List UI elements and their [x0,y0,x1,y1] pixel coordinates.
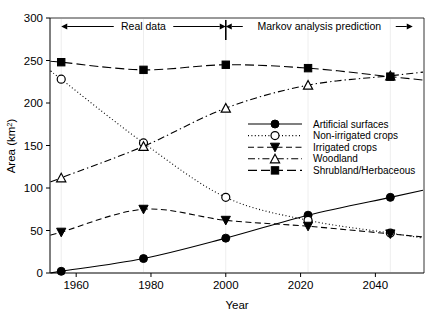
y-tick-label: 250 [24,55,43,67]
data-point-marker [222,61,229,68]
svg-text:Area (km2): Area (km2) [5,119,18,174]
data-point-marker [304,64,311,71]
x-tick-label: 1980 [138,279,164,291]
data-point-marker [386,193,394,201]
y-tick-label: 100 [24,182,43,194]
y-tick-label: 150 [24,140,43,152]
legend-label: Non-irrigated crops [313,130,398,141]
legend-label: Woodland [313,153,358,164]
data-point-marker [271,132,279,140]
data-point-marker [140,66,147,73]
data-point-marker [222,234,230,242]
legend-item-shrubland-herbaceous[interactable]: Shrubland/Herbaceous [248,165,415,176]
legend-label: Shrubland/Herbaceous [313,165,415,176]
chart-background [0,0,435,322]
data-point-marker [58,59,65,66]
data-point-marker [57,267,65,275]
data-point-marker [140,255,148,263]
x-tick-label: 2020 [288,279,314,291]
data-point-marker [271,120,279,128]
y-tick-label: 200 [24,97,43,109]
data-point-marker [57,75,65,83]
period-label: Markov analysis prediction [257,20,381,32]
area-change-line-chart: 050100150200250300 19601980200020202040 … [0,0,435,322]
data-point-marker [222,193,230,201]
y-axis-title-close: ) [5,119,17,123]
period-label: Real data [121,20,166,32]
data-point-marker [387,73,394,80]
y-tick-label: 300 [24,12,43,24]
legend-label: Artificial surfaces [313,119,389,130]
y-axis-title-base: Area (km [5,127,17,174]
y-tick-label: 50 [30,225,43,237]
x-axis-title: Year [225,299,248,311]
y-tick-label: 0 [37,267,43,279]
x-tick-label: 2000 [213,279,239,291]
x-tick-label: 1960 [63,279,89,291]
data-point-marker [271,167,278,174]
x-tick-label: 2040 [363,279,389,291]
y-axis-title: Area (km2) [5,119,18,174]
legend-label: Irrigated crops [313,142,377,153]
